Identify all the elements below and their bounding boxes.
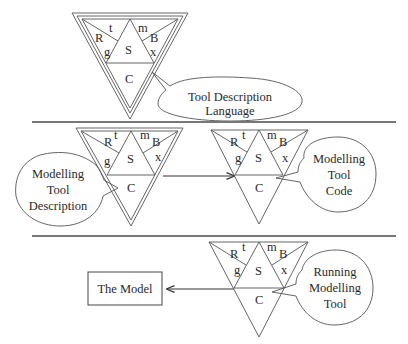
callout-line-2: Language (205, 104, 255, 118)
tool-description-language-callout: Tool Description Language (152, 72, 302, 121)
callout-line-3: Description (29, 199, 88, 213)
outer-outline-2 (77, 16, 183, 113)
label-t: t (242, 128, 246, 142)
label-m: m (267, 128, 277, 142)
label-r: R (104, 135, 113, 149)
label-r: R (95, 31, 104, 45)
label-x: x (155, 150, 162, 164)
label-c: C (125, 72, 133, 86)
label-g: g (104, 154, 111, 168)
label-s: S (255, 151, 262, 165)
label-g: g (234, 263, 241, 277)
label-c: C (255, 181, 263, 195)
label-g: g (104, 45, 111, 59)
callout-line-1: Tool Description (188, 90, 273, 104)
label-t: t (242, 240, 246, 254)
label-r: R (230, 247, 239, 261)
label-g: g (235, 151, 242, 165)
outer-outline (211, 130, 308, 224)
label-r: R (230, 135, 239, 149)
modelling-tool-code-callout: Modelling Tool Code (276, 137, 376, 212)
tool-description-language-triangle: R t g m B x S C (72, 13, 188, 119)
label-s: S (127, 152, 134, 166)
callout-line-3: Tool (324, 297, 347, 311)
modelling-tool-description-triangle: R t g m B x S C (76, 128, 183, 226)
label-x: x (150, 45, 157, 59)
label-m: m (138, 21, 148, 35)
modelling-tool-description-callout: Modelling Tool Description (16, 152, 118, 226)
callout-line-2: Modelling (309, 281, 362, 295)
label-x: x (281, 263, 288, 277)
running-modelling-tool-callout: Running Modelling Tool (272, 250, 373, 325)
callout-line-2: Tool (328, 168, 351, 182)
callout-bubble (276, 137, 376, 212)
callout-line-1: Modelling (313, 152, 366, 166)
callout-line-1: Modelling (32, 167, 85, 181)
label-c: C (127, 181, 135, 195)
label-s: S (255, 264, 262, 278)
callout-line-2: Tool (47, 183, 70, 197)
label-c: C (255, 293, 263, 307)
label-t: t (114, 128, 118, 142)
top-right-divider (272, 242, 308, 265)
label-m: m (140, 128, 150, 142)
label-b: B (150, 31, 158, 45)
diagram-canvas: R t g m B x S C Tool Description Languag… (0, 0, 408, 344)
outer-outline-1 (72, 13, 188, 119)
label-s: S (125, 43, 132, 57)
label-b: B (152, 135, 160, 149)
label-t: t (109, 21, 113, 35)
label-x: x (282, 151, 289, 165)
the-model-box: The Model (88, 272, 162, 305)
label-m: m (267, 240, 277, 254)
model-box-label: The Model (97, 282, 153, 296)
label-b: B (279, 135, 287, 149)
callout-line-1: Running (313, 265, 357, 279)
callout-line-3: Code (326, 184, 353, 198)
outer-outline-1 (76, 128, 183, 226)
label-b: B (279, 247, 287, 261)
